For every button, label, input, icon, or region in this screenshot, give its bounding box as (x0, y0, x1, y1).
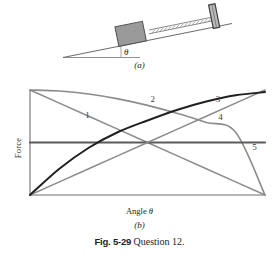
spring-top-rail (149, 17, 213, 30)
wall-post (209, 4, 220, 29)
force-angle-chart-svg: 1 2 3 4 5 (0, 84, 279, 209)
block-body (115, 21, 146, 46)
y-axis-title: Force (13, 125, 23, 171)
spring-coils (152, 18, 211, 33)
panel-a-incline-diagram: θ (a) (0, 0, 279, 80)
figure-caption: Fig. 5-29 Question 12. (0, 236, 279, 247)
angle-theta-label: θ (124, 47, 129, 57)
incline-surface-line (63, 24, 232, 58)
x-axis-title-text: Angle (126, 206, 147, 216)
x-axis-title: Angle θ (0, 206, 279, 216)
panel-b-force-vs-angle-graph: 1 2 3 4 5 (0, 84, 279, 209)
y-axis-title-wrapper: Force (11, 118, 25, 178)
curve-label-3: 3 (216, 94, 221, 104)
block (115, 21, 146, 46)
panel-a-label: (a) (0, 60, 279, 70)
spring-bottom-rail (149, 21, 213, 34)
curve-label-2: 2 (150, 94, 155, 104)
curve-label-1: 1 (85, 110, 90, 120)
x-axis-title-theta: θ (149, 206, 153, 216)
chart-curves (30, 90, 265, 195)
figure-number: Fig. 5-29 (94, 236, 131, 247)
figure-description: Question 12. (134, 236, 185, 247)
panel-b-label: (b) (0, 220, 279, 230)
curve-label-4: 4 (218, 112, 223, 122)
curve-label-5: 5 (252, 142, 257, 152)
